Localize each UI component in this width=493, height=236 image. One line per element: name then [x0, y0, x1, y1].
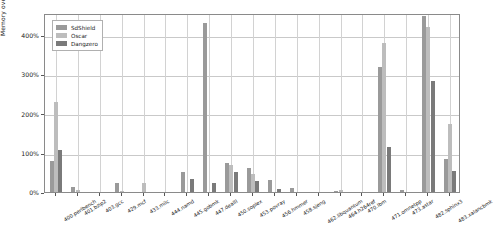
bar-dangzero-482.sphinx3 [431, 81, 435, 192]
bar-sdshield-453.povray [247, 168, 251, 192]
bar-oscar-471.omnetpp [382, 43, 386, 192]
bar-sdshield-447.dealII [203, 23, 207, 192]
y-axis-tick-label: 100% [0, 150, 39, 157]
gridline-vertical [297, 15, 298, 192]
gridline-vertical [275, 15, 276, 192]
y-axis-tick-label: 200% [0, 111, 39, 118]
bar-dangzero-447.dealII [212, 183, 216, 192]
legend-swatch-icon [56, 25, 67, 30]
x-axis-tick-mark [55, 193, 56, 196]
bar-dangzero-400.perlbench [58, 150, 62, 192]
x-axis-tick-mark [383, 193, 384, 196]
gridline-vertical [187, 15, 188, 192]
bar-oscar-483.xalancbmk [448, 124, 452, 192]
x-axis-tick-mark [340, 193, 341, 196]
legend-item: Dangzero [56, 40, 98, 47]
legend-swatch-icon [56, 41, 67, 46]
x-axis-tick-mark [449, 193, 450, 196]
bar-oscar-482.sphinx3 [426, 27, 430, 192]
x-axis-tick-mark [186, 193, 187, 196]
bar-sdshield-482.sphinx3 [422, 16, 426, 192]
gridline-horizontal [45, 115, 459, 116]
bar-sdshield-464.h264ref [334, 191, 338, 192]
x-axis-tick-mark [121, 193, 122, 196]
legend-label: SdShield [71, 25, 95, 31]
x-axis-tick-mark [230, 193, 231, 196]
x-axis-tick-label: 433.milc [148, 198, 170, 215]
x-axis-tick-mark [252, 193, 253, 196]
gridline-vertical [209, 15, 210, 192]
bar-dangzero-456.hmmer [277, 189, 281, 192]
bar-sdshield-450.soplex [225, 163, 229, 193]
x-axis-tick-mark [274, 193, 275, 196]
bar-oscar-401.bzip2 [76, 190, 80, 192]
bar-sdshield-483.xalancbmk [444, 159, 448, 192]
x-axis-tick-mark [296, 193, 297, 196]
bar-oscar-453.povray [251, 174, 255, 192]
gridline-horizontal [45, 76, 459, 77]
y-axis-tick-mark [41, 193, 44, 194]
bar-sdshield-401.bzip2 [71, 187, 75, 192]
bar-dangzero-471.omnetpp [387, 147, 391, 192]
y-axis-tick-label: 300% [0, 71, 39, 78]
bar-oscar-450.soplex [229, 165, 233, 192]
bar-sdshield-445.gobmk [181, 172, 185, 192]
gridline-vertical [362, 15, 363, 192]
bar-dangzero-445.gobmk [190, 179, 194, 192]
bar-sdshield-400.perlbench [50, 161, 54, 192]
legend-item: SdShield [56, 24, 98, 31]
gridline-vertical [144, 15, 145, 192]
gridline-horizontal [45, 155, 459, 156]
bar-dangzero-483.xalancbmk [452, 171, 456, 192]
gridline-vertical [253, 15, 254, 192]
bar-sdshield-456.hmmer [268, 180, 272, 192]
bar-dangzero-450.soplex [234, 172, 238, 192]
bar-sdshield-473.astar [400, 190, 404, 192]
bar-oscar-400.perlbench [54, 102, 58, 192]
x-axis-tick-label: 429.mcf [126, 198, 147, 214]
x-axis-tick-mark [77, 193, 78, 196]
legend-item: Oscar [56, 32, 98, 39]
gridline-horizontal [45, 37, 459, 38]
y-axis-tick-label: 400% [0, 32, 39, 39]
gridline-vertical [341, 15, 342, 192]
gridline-vertical [406, 15, 407, 192]
x-axis-tick-mark [361, 193, 362, 196]
x-axis-tick-mark [427, 193, 428, 196]
legend-label: Oscar [71, 33, 87, 39]
x-axis-tick-mark [164, 193, 165, 196]
x-axis-tick-mark [208, 193, 209, 196]
bar-sdshield-429.mcf [115, 183, 119, 192]
bar-sdshield-458.sjeng [290, 188, 294, 192]
x-axis-tick-label: 444.namd [170, 198, 195, 217]
legend-swatch-icon [56, 33, 67, 38]
x-axis-tick-mark [143, 193, 144, 196]
gridline-vertical [122, 15, 123, 192]
bar-dangzero-453.povray [255, 181, 259, 192]
y-axis-tick-label: 0% [0, 189, 39, 196]
chart-legend: SdShieldOscarDangzero [52, 20, 103, 51]
x-axis-tick-mark [405, 193, 406, 196]
bar-oscar-433.milc [142, 183, 146, 192]
plot-area [44, 14, 460, 193]
bar-sdshield-471.omnetpp [378, 67, 382, 192]
x-axis-tick-mark [99, 193, 100, 196]
gridline-vertical [319, 15, 320, 192]
x-axis-tick-label: 403.gcc [104, 198, 124, 214]
bar-oscar-464.h264ref [339, 190, 343, 192]
x-axis-tick-mark [318, 193, 319, 196]
bar-oscar-429.mcf [120, 191, 124, 192]
legend-label: Dangzero [71, 41, 98, 47]
gridline-vertical [165, 15, 166, 192]
